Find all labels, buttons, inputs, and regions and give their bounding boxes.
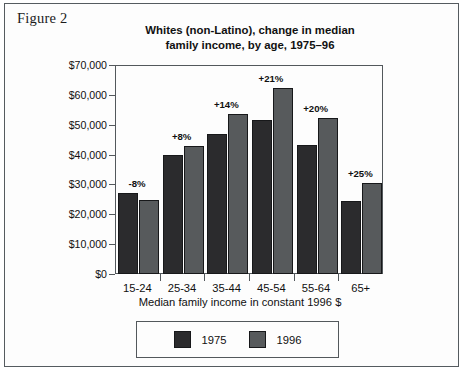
x-axis-tick-mark (294, 274, 295, 281)
y-axis-tick-label: $10,000 (45, 238, 107, 250)
x-axis-tick-label: 65+ (331, 282, 391, 294)
legend-swatch-1975-icon (174, 331, 191, 348)
y-axis-tick-label: $40,000 (45, 149, 107, 161)
bar-1975-35-44 (207, 134, 227, 274)
y-axis-tick-label: $20,000 (45, 208, 107, 220)
legend-entry-1996: 1996 (249, 331, 302, 348)
bar-value-label: +25% (337, 168, 383, 179)
bar-1996-55-64 (318, 118, 338, 274)
bar-1996-35-44 (228, 114, 248, 274)
bar-1975-25-34 (163, 155, 183, 274)
legend-label-1996: 1996 (277, 334, 302, 346)
bar-group: +8% (160, 65, 205, 274)
legend-label-1975: 1975 (202, 334, 227, 346)
bar-1975-55-64 (297, 145, 317, 274)
y-axis-tick-label: $60,000 (45, 89, 107, 101)
bar-group: +20% (294, 65, 339, 274)
bar-1975-45-54 (252, 120, 272, 274)
bar-1975-65+ (341, 201, 361, 274)
figure-caption: Figure 2 (17, 10, 67, 27)
bar-group: +14% (204, 65, 249, 274)
bar-value-label: +14% (203, 99, 249, 110)
y-axis-tick-label: $30,000 (45, 178, 107, 190)
bar-1996-45-54 (273, 88, 293, 274)
y-axis-tick-mark (109, 184, 115, 185)
x-axis-tick-mark (249, 274, 250, 281)
y-axis-tick-labels: $0$10,000$20,000$30,000$40,000$50,000$60… (43, 65, 107, 274)
bar-1996-15-24 (139, 200, 159, 274)
y-axis-tick-label: $50,000 (45, 119, 107, 131)
bar-value-label: +8% (159, 131, 205, 142)
chart-legend: 1975 1996 (136, 321, 339, 358)
y-axis-tick-mark (109, 155, 115, 156)
y-axis-tick-label: $70,000 (45, 59, 107, 71)
x-axis-tick-mark (160, 274, 161, 281)
chart-title-line-2: family income, by age, 1975–96 (100, 38, 400, 53)
y-axis-tick-mark (109, 95, 115, 96)
bar-group: -8% (115, 65, 160, 274)
figure-frame: Figure 2 Whites (non-Latino), change in … (4, 3, 459, 367)
chart-title: Whites (non-Latino), change in median fa… (100, 23, 400, 52)
bar-1996-65+ (362, 183, 382, 274)
bar-value-label: -8% (114, 178, 160, 189)
bar-group: +25% (338, 65, 383, 274)
y-axis-tick-mark (109, 125, 115, 126)
y-axis-tick-mark (109, 214, 115, 215)
x-axis-title: Median family income in constant 1996 $ (65, 296, 415, 308)
bar-1975-15-24 (118, 193, 138, 274)
bar-value-label: +21% (248, 73, 294, 84)
y-axis-tick-label: $0 (45, 268, 107, 280)
chart-title-line-1: Whites (non-Latino), change in median (100, 23, 400, 38)
x-axis-tick-mark (204, 274, 205, 281)
bar-1996-25-34 (184, 146, 204, 274)
y-axis-tick-mark (109, 274, 115, 275)
legend-entry-1975: 1975 (174, 331, 227, 348)
bar-group: +21% (249, 65, 294, 274)
bar-value-label: +20% (293, 103, 339, 114)
y-axis-tick-mark (109, 65, 115, 66)
y-axis-tick-mark (109, 244, 115, 245)
x-axis-tick-mark (338, 274, 339, 281)
legend-swatch-1996-icon (249, 331, 266, 348)
bars-layer: -8%+8%+14%+21%+20%+25% (115, 65, 383, 274)
